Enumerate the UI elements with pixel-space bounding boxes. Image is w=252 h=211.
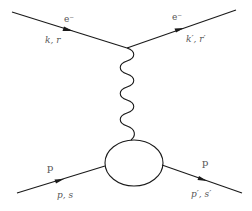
arrow-icon (198, 176, 208, 181)
outgoing-electron-momentum: k′, r′ (186, 34, 206, 44)
hadronic-blob (105, 140, 163, 186)
outgoing-proton-label: p (202, 157, 208, 168)
incoming-electron-label: e⁻ (64, 14, 74, 24)
incoming-proton-label: p (47, 162, 53, 173)
arrow-icon (55, 179, 65, 184)
incoming-electron-momentum: k, r (45, 35, 61, 45)
outgoing-electron-label: e⁻ (172, 12, 182, 22)
incoming-proton-line (17, 166, 105, 193)
photon-wavy-line (120, 48, 134, 140)
arrow-icon (175, 28, 185, 33)
incoming-proton-momentum: p, s (57, 190, 73, 200)
outgoing-proton-momentum: p′, s′ (191, 189, 211, 199)
feynman-diagram: e⁻ k, r e⁻ k′, r′ p p, s p p′, s′ (0, 0, 252, 211)
arrow-icon (63, 27, 74, 32)
